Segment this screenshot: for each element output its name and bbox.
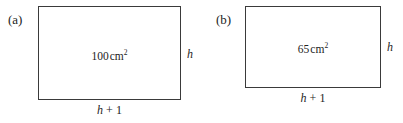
figure-a-base-label: h + 1 [38, 104, 181, 116]
figure-b-base-label: h + 1 [245, 92, 381, 104]
figure-b-area-value: 65 [298, 43, 310, 55]
figure-a-area-unit: cm [110, 50, 124, 62]
figure-b-area-unit: cm [310, 43, 324, 55]
figure-b-label: (b) [216, 13, 231, 26]
figure-a-base-suffix: + 1 [103, 103, 122, 117]
figure-a-label: (a) [8, 13, 22, 26]
figure-b-height-label: h [387, 41, 393, 53]
figure-a-height-label: h [187, 48, 193, 60]
figure-a-area-exponent: 2 [124, 48, 128, 57]
figure-canvas: (a) 100 cm2 h h + 1 (b) 65 cm2 h h + 1 [0, 0, 403, 123]
figure-b-base-suffix: + 1 [307, 91, 326, 105]
figure-b-area-exponent: 2 [324, 41, 328, 50]
figure-b-area-text: 65 cm2 [245, 44, 381, 56]
figure-a-area-text: 100 cm2 [38, 51, 181, 63]
figure-a-area-value: 100 [91, 50, 108, 62]
